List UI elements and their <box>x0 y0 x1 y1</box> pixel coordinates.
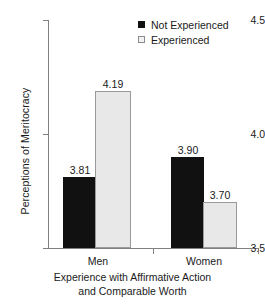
x-category-label-men: Men <box>68 256 128 268</box>
x-category-label-women: Women <box>174 256 234 268</box>
bar-men-not-experienced[interactable] <box>63 177 97 248</box>
y-axis-title: Perceptions of Meritocracy <box>19 61 31 241</box>
legend-label-experienced: Experienced <box>151 34 209 46</box>
bar-chart-figure: Perceptions of Meritocracy 4.5 4.0 3.5 3… <box>0 0 265 304</box>
bar-women-experienced[interactable] <box>203 202 237 248</box>
bar-value-women-experienced: 3.70 <box>193 190 247 201</box>
legend-swatch-open-square-icon <box>138 36 145 43</box>
x-axis-title: Experience with Affirmative Action and C… <box>0 271 265 298</box>
bar-value-men-experienced: 4.19 <box>86 79 140 90</box>
bar-women-not-experienced[interactable] <box>171 157 204 248</box>
y-tick-mark-3.5 <box>43 248 48 249</box>
x-tick-mark-right-end <box>258 249 259 254</box>
bar-men-experienced[interactable] <box>95 91 131 248</box>
legend: Not Experienced Experienced <box>138 17 229 47</box>
x-axis-title-line-1: Experience with Affirmative Action <box>0 271 265 285</box>
plot-area: 3.81 4.19 3.90 3.70 <box>48 20 258 248</box>
x-tick-mark-between-groups <box>153 249 154 254</box>
legend-item-experienced[interactable]: Experienced <box>138 32 229 47</box>
legend-swatch-filled-square-icon <box>138 21 145 28</box>
bar-value-women-not-experienced: 3.90 <box>161 145 215 156</box>
x-axis-title-line-2: and Comparable Worth <box>0 285 265 299</box>
legend-item-not-experienced[interactable]: Not Experienced <box>138 17 229 32</box>
legend-label-not-experienced: Not Experienced <box>151 19 229 31</box>
